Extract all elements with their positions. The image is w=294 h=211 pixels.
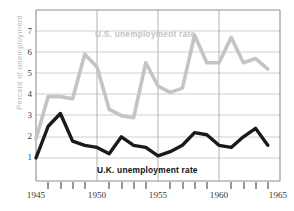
x-tick-label-1955: 1955 (138, 191, 178, 200)
x-tick-label-1945: 1945 (16, 191, 56, 200)
x-tick-label-1965: 1965 (258, 191, 294, 200)
unemployment-rate-chart: Percent of unemployment 7 6 5 4 3 2 1 (0, 0, 294, 211)
x-tick-label-1960: 1960 (199, 191, 239, 200)
series-label-us: U.S. unemployment rate (95, 31, 195, 39)
x-tick-label-1950: 1950 (77, 191, 117, 200)
x-axis-minor-ticks (48, 182, 268, 189)
series-label-uk: U.K. unemployment rate (97, 166, 198, 174)
